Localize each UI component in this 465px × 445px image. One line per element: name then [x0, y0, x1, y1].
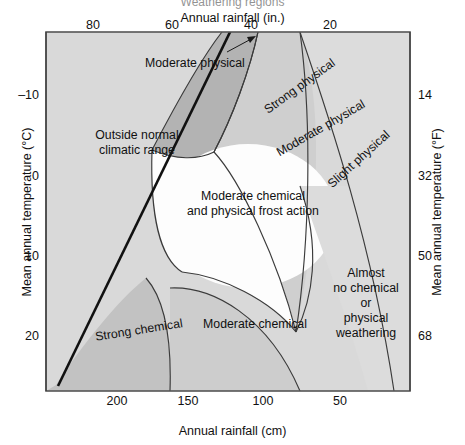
region-label-moderate-physical-callout: Moderate physical — [145, 56, 265, 71]
tick-left-0: –10 — [5, 88, 39, 102]
bottom-axis-title: Annual rainfall (cm) — [0, 424, 465, 438]
region-label-moderate-chemical: Moderate chemical — [195, 317, 315, 332]
tick-bottom-2: 100 — [243, 394, 283, 408]
tick-right-0: 14 — [418, 88, 452, 102]
tick-bottom-3: 50 — [320, 394, 360, 408]
tick-left-1: 0 — [5, 169, 39, 183]
tick-bottom-0: 200 — [97, 394, 137, 408]
tick-bottom-1: 150 — [168, 394, 208, 408]
clipped-caption: Weathering regions — [0, 0, 465, 9]
region-label-outside-normal-climatic-range: Outside normalclimatic range — [67, 128, 207, 158]
region-label-moderate-chemical-and-physical-frost-action: Moderate chemicaland physical frost acti… — [178, 189, 328, 219]
tick-right-2: 50 — [418, 249, 452, 263]
tick-right-3: 68 — [418, 329, 452, 343]
tick-left-3: 20 — [5, 329, 39, 343]
left-axis-title: Mean annual temperature (°C) — [20, 102, 34, 322]
tick-top-1: 60 — [152, 18, 192, 32]
region-label-almost-no-chemical-or-physical-weathering: Almostno chemicalorphysicalweathering — [320, 266, 412, 341]
tick-top-0: 80 — [73, 18, 113, 32]
right-axis-title: Mean annual temperature (°F) — [430, 102, 444, 322]
tick-left-2: 10 — [5, 249, 39, 263]
tick-top-3: 20 — [310, 18, 350, 32]
tick-right-1: 32 — [418, 169, 452, 183]
tick-top-2: 40 — [231, 18, 271, 32]
